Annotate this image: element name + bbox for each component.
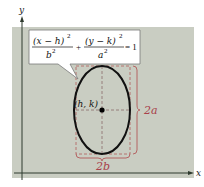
term2-denominator: a [98,50,103,60]
term2-exponent: 2 [119,32,123,40]
center-point [99,107,104,112]
equals-one: = 1 [125,42,137,52]
x-axis-label: x [196,168,201,178]
term1-exponent: 2 [67,32,71,40]
term1-denominator-exponent: 2 [52,47,56,55]
term2-numerator: (y − k) [85,36,116,46]
minor-axis-label: 2b [95,160,110,173]
y-axis-label: y [18,5,25,15]
term2-denominator-exponent: 2 [104,47,108,55]
ellipse-diagram: y x (h, k) 2a 2b (x − h) 2 b 2 + (y − k)… [0,0,204,187]
term1-numerator: (x − h) [33,36,65,46]
center-label: (h, k) [74,99,98,109]
major-axis-label: 2a [143,104,158,117]
y-axis-arrow-icon [20,16,24,22]
plus-sign: + [76,42,81,52]
